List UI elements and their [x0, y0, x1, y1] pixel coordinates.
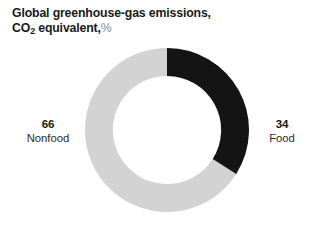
chart-title-line-2: CO2 equivalent,% — [12, 21, 302, 37]
label-food-name: Food — [252, 131, 312, 145]
donut-svg — [85, 48, 249, 212]
chart-title-co2-text: CO — [12, 21, 30, 35]
label-food: 34 Food — [252, 117, 312, 145]
label-nonfood-value: 66 — [12, 117, 84, 130]
label-nonfood: 66 Nonfood — [12, 117, 84, 145]
donut-chart-figure: Global greenhouse-gas emissions, CO2 equ… — [0, 0, 319, 246]
donut-chart-graphic — [85, 48, 249, 212]
chart-title: Global greenhouse-gas emissions, CO2 equ… — [12, 6, 302, 36]
label-nonfood-name: Nonfood — [12, 131, 84, 145]
chart-title-equivalent-text: equivalent, — [35, 21, 101, 35]
donut-slice-food — [167, 48, 249, 174]
label-food-value: 34 — [252, 117, 312, 130]
chart-title-line-1: Global greenhouse-gas emissions, — [12, 6, 302, 21]
chart-title-co2-subscript: 2 — [30, 26, 35, 36]
chart-title-unit: % — [101, 21, 112, 35]
